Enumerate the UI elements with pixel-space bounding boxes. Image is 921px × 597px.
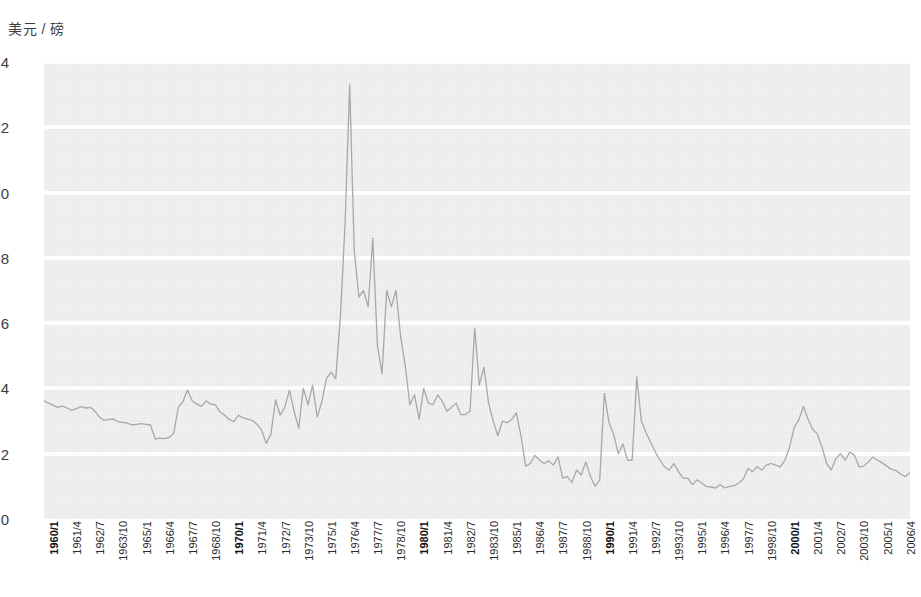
x-tick-label-2003-10: 2003/10 — [858, 521, 870, 561]
y-tick-label-14: 14 — [0, 54, 9, 71]
series-line-usd-per-pound — [44, 62, 910, 519]
x-tick-label-2001-4: 2001/4 — [812, 521, 824, 555]
x-tick-label-1980-1: 1980/1 — [418, 521, 430, 555]
x-tick-label-1967-7: 1967/7 — [187, 521, 199, 555]
x-tick-label-1963-10: 1963/10 — [117, 521, 129, 561]
plot-area — [44, 62, 910, 519]
x-tick-label-1985-1: 1985/1 — [511, 521, 523, 555]
x-tick-label-1962-7: 1962/7 — [94, 521, 106, 555]
x-tick-label-1992-7: 1992/7 — [650, 521, 662, 555]
x-axis-tick-group: 1960/11961/41962/71963/101965/11966/4196… — [44, 519, 910, 597]
x-tick-label-1988-10: 1988/10 — [581, 521, 593, 561]
x-tick-label-1981-4: 1981/4 — [442, 521, 454, 555]
x-tick-label-2005-1: 2005/1 — [882, 521, 894, 555]
y-tick-label-4: 4 — [0, 380, 9, 397]
x-tick-label-2000-1: 2000/1 — [789, 521, 801, 555]
y-tick-label-12: 12 — [0, 119, 9, 136]
x-tick-label-1996-4: 1996/4 — [719, 521, 731, 555]
x-tick-label-2002-7: 2002/7 — [835, 521, 847, 555]
x-tick-label-1970-1: 1970/1 — [233, 521, 245, 555]
x-tick-label-1998-10: 1998/10 — [766, 521, 778, 561]
x-tick-label-1971-4: 1971/4 — [256, 521, 268, 555]
x-tick-label-1991-4: 1991/4 — [627, 521, 639, 555]
x-tick-label-1966-4: 1966/4 — [164, 521, 176, 555]
x-tick-label-1960-1: 1960/1 — [48, 521, 60, 555]
x-tick-label-1986-4: 1986/4 — [534, 521, 546, 555]
price-line-chart: 美元 / 磅 02468101214 1960/11961/41962/7196… — [0, 0, 921, 597]
x-tick-label-1990-1: 1990/1 — [604, 521, 616, 555]
x-tick-label-1982-7: 1982/7 — [465, 521, 477, 555]
series-polyline — [44, 85, 910, 488]
x-tick-label-1983-10: 1983/10 — [488, 521, 500, 561]
x-tick-label-1972-7: 1972/7 — [280, 521, 292, 555]
x-tick-label-1987-7: 1987/7 — [557, 521, 569, 555]
x-tick-label-1968-10: 1968/10 — [210, 521, 222, 561]
y-tick-label-0: 0 — [0, 511, 9, 528]
x-tick-label-1965-1: 1965/1 — [141, 521, 153, 555]
y-tick-label-6: 6 — [0, 315, 9, 332]
y-tick-label-10: 10 — [0, 184, 9, 201]
x-tick-label-1975-1: 1975/1 — [326, 521, 338, 555]
x-tick-label-1997-7: 1997/7 — [743, 521, 755, 555]
x-tick-label-1993-10: 1993/10 — [673, 521, 685, 561]
y-tick-label-8: 8 — [0, 249, 9, 266]
x-tick-label-2006-4: 2006/4 — [905, 521, 917, 555]
x-tick-label-1995-1: 1995/1 — [696, 521, 708, 555]
x-tick-label-1961-4: 1961/4 — [71, 521, 83, 555]
x-tick-label-1977-7: 1977/7 — [372, 521, 384, 555]
x-tick-label-1978-10: 1978/10 — [395, 521, 407, 561]
x-tick-label-1973-10: 1973/10 — [303, 521, 315, 561]
x-tick-label-1976-4: 1976/4 — [349, 521, 361, 555]
y-tick-label-2: 2 — [0, 445, 9, 462]
